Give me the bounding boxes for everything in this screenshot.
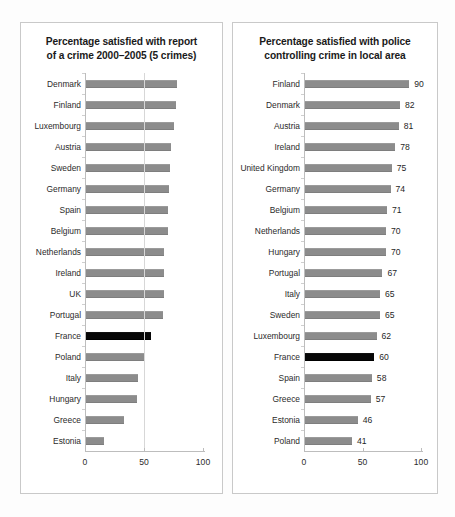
bar-row: Austria: [21, 136, 222, 157]
bar-row: UK: [21, 283, 222, 304]
bar-track: [85, 409, 222, 430]
bar-track: [85, 178, 222, 199]
bar-row: Ireland78: [233, 136, 437, 157]
bar-row: Italy65: [233, 283, 437, 304]
category-label: Austria: [21, 142, 85, 152]
bar-value-label: 75: [397, 163, 407, 173]
category-label: Greece: [233, 394, 304, 404]
category-label: Finland: [21, 100, 85, 110]
bar-value-label: 70: [391, 247, 401, 257]
bar: [85, 248, 164, 256]
bar-row: France60: [233, 346, 437, 367]
x-tick-label: 0: [83, 457, 88, 467]
bar-track: 81: [304, 115, 437, 136]
x-tick-label: 100: [196, 457, 210, 467]
bar: [304, 143, 395, 151]
x-tick: [203, 448, 204, 452]
bar-track: 41: [304, 430, 437, 451]
bar-row: Netherlands70: [233, 220, 437, 241]
bar-row: Portugal67: [233, 262, 437, 283]
bar: [85, 311, 163, 319]
category-label: Germany: [233, 184, 304, 194]
bar-row: Poland: [21, 346, 222, 367]
bar-track: 65: [304, 283, 437, 304]
bar-row: Germany74: [233, 178, 437, 199]
bar-track: [85, 367, 222, 388]
bar-track: [85, 157, 222, 178]
bar: [304, 248, 386, 256]
bar-track: 70: [304, 220, 437, 241]
bar-row: Luxembourg62: [233, 325, 437, 346]
category-label: Denmark: [21, 79, 85, 89]
category-label: Greece: [21, 415, 85, 425]
category-label: Sweden: [21, 163, 85, 173]
bar: [85, 332, 151, 340]
bar: [304, 101, 400, 109]
bar-track: 74: [304, 178, 437, 199]
bar: [304, 80, 409, 88]
bar: [85, 101, 176, 109]
bar-track: 90: [304, 73, 437, 94]
bar: [85, 122, 174, 130]
bar-row: Sweden65: [233, 304, 437, 325]
bar-value-label: 60: [379, 352, 389, 362]
y-axis-line: [85, 73, 86, 451]
category-label: Ireland: [21, 268, 85, 278]
bar: [304, 374, 372, 382]
x-tick-label: 50: [358, 457, 368, 467]
bar-row: Spain58: [233, 367, 437, 388]
bar-row: Portugal: [21, 304, 222, 325]
bar-track: 57: [304, 388, 437, 409]
bar-track: [85, 283, 222, 304]
bar: [304, 395, 371, 403]
chart-panel-left: Percentage satisfied with report of a cr…: [20, 22, 223, 494]
gridline: [144, 73, 145, 451]
bar: [304, 353, 374, 361]
category-label: Belgium: [233, 205, 304, 215]
category-label: Austria: [233, 121, 304, 131]
bar-track: [85, 136, 222, 157]
x-tick: [144, 448, 145, 452]
bar-row: Denmark: [21, 73, 222, 94]
bar-track: 78: [304, 136, 437, 157]
bar: [85, 227, 168, 235]
bar-row: Hungary70: [233, 241, 437, 262]
bar-track: [85, 199, 222, 220]
bar-value-label: 67: [387, 268, 397, 278]
bar-value-label: 90: [414, 79, 424, 89]
category-label: Spain: [21, 205, 85, 215]
bar-row: Poland41: [233, 430, 437, 451]
bar: [304, 185, 391, 193]
category-label: France: [21, 331, 85, 341]
bar: [85, 437, 104, 445]
category-label: Denmark: [233, 100, 304, 110]
bar-track: 70: [304, 241, 437, 262]
x-tick-label: 0: [302, 457, 307, 467]
category-label: Poland: [21, 352, 85, 362]
bar-track: 75: [304, 157, 437, 178]
chart-title-left-line2: of a crime 2000–2005 (5 crimes): [27, 49, 216, 63]
bar-value-label: 41: [357, 436, 367, 446]
category-label: Hungary: [233, 247, 304, 257]
bar-rows-left: DenmarkFinlandLuxembourgAustriaSwedenGer…: [21, 73, 222, 451]
category-label: Portugal: [21, 310, 85, 320]
bar-track: [85, 346, 222, 367]
bar: [85, 290, 164, 298]
x-tick: [421, 448, 422, 452]
category-label: Italy: [21, 373, 85, 383]
plot-area-right: Finland90Denmark82Austria81Ireland78Unit…: [233, 73, 437, 451]
bar-row: Netherlands: [21, 241, 222, 262]
bar-row: Hungary: [21, 388, 222, 409]
category-label: Luxembourg: [233, 331, 304, 341]
bar: [304, 416, 358, 424]
category-label: France: [233, 352, 304, 362]
bar-row: Greece: [21, 409, 222, 430]
category-label: UK: [21, 289, 85, 299]
chart-title-left-line1: Percentage satisfied with report: [27, 35, 216, 49]
bar-value-label: 65: [385, 310, 395, 320]
bar-row: Luxembourg: [21, 115, 222, 136]
bar-row: Italy: [21, 367, 222, 388]
bar: [85, 395, 137, 403]
bar-row: Belgium71: [233, 199, 437, 220]
x-tick-label: 100: [414, 457, 428, 467]
